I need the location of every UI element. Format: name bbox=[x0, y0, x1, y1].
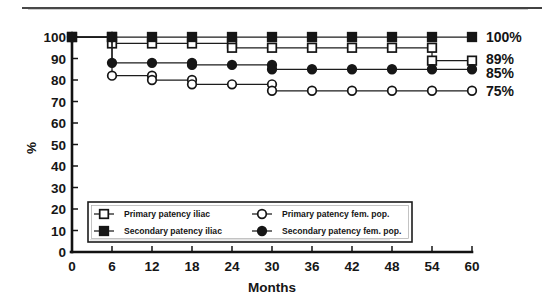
x-tick-label: 0 bbox=[68, 259, 76, 274]
y-tick-label: 40 bbox=[51, 159, 66, 174]
legend-label: Secondary patency fem. pop. bbox=[282, 226, 401, 236]
y-tick-label: 60 bbox=[51, 116, 66, 131]
x-tick-label: 42 bbox=[344, 259, 359, 274]
x-tick-label: 36 bbox=[304, 259, 320, 274]
end-value-label: 75% bbox=[486, 83, 515, 99]
y-tick-label: 30 bbox=[51, 181, 66, 196]
legend-marker bbox=[100, 227, 109, 236]
data-point-marker bbox=[268, 43, 277, 52]
end-value-label: 100% bbox=[486, 29, 522, 45]
chart-figure: 0102030405060708090100 06121824303642485… bbox=[0, 0, 558, 305]
legend-marker bbox=[100, 210, 109, 219]
data-point-marker bbox=[148, 59, 157, 68]
y-tick-label: 70 bbox=[51, 95, 66, 110]
x-axis-tick-labels: 06121824303642485460 bbox=[68, 259, 479, 274]
end-value-labels: 100%89%85%75% bbox=[486, 29, 522, 99]
data-point-marker bbox=[228, 61, 237, 70]
y-tick-label: 10 bbox=[51, 224, 66, 239]
data-point-marker bbox=[468, 65, 477, 74]
x-tick-label: 12 bbox=[144, 259, 159, 274]
data-point-marker bbox=[188, 80, 197, 89]
data-point-marker bbox=[388, 86, 397, 95]
y-tick-label: 100 bbox=[43, 30, 66, 45]
x-tick-label: 54 bbox=[424, 259, 440, 274]
legend-marker bbox=[258, 210, 267, 219]
legend-entries: Primary patency iliacPrimary patency fem… bbox=[94, 209, 401, 236]
data-point-marker bbox=[308, 86, 317, 95]
data-point-marker bbox=[348, 43, 357, 52]
data-point-marker bbox=[268, 65, 277, 74]
data-point-marker bbox=[428, 56, 437, 65]
data-point-marker bbox=[308, 33, 317, 42]
y-axis-title: % bbox=[24, 142, 39, 154]
data-point-marker bbox=[308, 65, 317, 74]
data-point-marker bbox=[348, 33, 357, 42]
step-marker bbox=[108, 33, 117, 42]
data-point-marker bbox=[428, 65, 437, 74]
x-tick-label: 48 bbox=[384, 259, 400, 274]
data-point-marker bbox=[108, 59, 117, 68]
data-point-marker bbox=[388, 65, 397, 74]
legend-label: Primary patency iliac bbox=[124, 209, 210, 219]
end-value-label: 85% bbox=[486, 65, 515, 81]
legend-item-0[interactable]: Primary patency iliac bbox=[94, 209, 210, 219]
legend-label: Secondary patency iliac bbox=[124, 226, 222, 236]
data-point-marker bbox=[348, 86, 357, 95]
data-point-marker bbox=[308, 43, 317, 52]
data-point-marker bbox=[68, 33, 77, 42]
legend-item-2[interactable]: Secondary patency iliac bbox=[94, 226, 222, 236]
y-tick-label: 20 bbox=[51, 202, 66, 217]
end-value-label: 89% bbox=[486, 51, 515, 67]
data-point-marker bbox=[348, 65, 357, 74]
series-layer bbox=[68, 33, 477, 95]
legend-item-3[interactable]: Secondary patency fem. pop. bbox=[252, 226, 401, 236]
data-point-marker bbox=[468, 86, 477, 95]
x-tick-label: 6 bbox=[108, 259, 116, 274]
data-point-marker bbox=[428, 86, 437, 95]
y-tick-label: 0 bbox=[58, 245, 66, 260]
data-point-marker bbox=[228, 33, 237, 42]
data-point-marker bbox=[388, 33, 397, 42]
data-point-marker bbox=[148, 76, 157, 85]
x-axis-title: Months bbox=[248, 280, 296, 295]
x-tick-label: 60 bbox=[464, 259, 479, 274]
x-tick-label: 24 bbox=[224, 259, 240, 274]
legend-label: Primary patency fem. pop. bbox=[282, 209, 389, 219]
y-axis-tick-labels: 0102030405060708090100 bbox=[43, 30, 66, 260]
x-tick-label: 30 bbox=[264, 259, 279, 274]
data-point-marker bbox=[188, 33, 197, 42]
data-point-marker bbox=[108, 71, 117, 80]
data-point-marker bbox=[228, 80, 237, 89]
data-point-marker bbox=[268, 86, 277, 95]
x-tick-label: 18 bbox=[184, 259, 200, 274]
kaplan-meier-patency-chart: 0102030405060708090100 06121824303642485… bbox=[0, 0, 558, 305]
legend-smudge-artifact bbox=[90, 239, 390, 241]
data-point-marker bbox=[228, 43, 237, 52]
y-tick-label: 50 bbox=[51, 138, 66, 153]
data-point-marker bbox=[428, 33, 437, 42]
data-point-marker bbox=[468, 33, 477, 42]
data-point-marker bbox=[188, 61, 197, 70]
data-point-marker bbox=[388, 43, 397, 52]
y-tick-label: 90 bbox=[51, 52, 66, 67]
legend-item-1[interactable]: Primary patency fem. pop. bbox=[252, 209, 389, 219]
legend-marker bbox=[258, 227, 267, 236]
data-point-marker bbox=[468, 56, 477, 65]
data-point-marker bbox=[268, 33, 277, 42]
data-point-marker bbox=[148, 33, 157, 42]
y-tick-label: 80 bbox=[51, 73, 66, 88]
series-1 bbox=[68, 33, 477, 42]
step-marker bbox=[428, 43, 437, 52]
